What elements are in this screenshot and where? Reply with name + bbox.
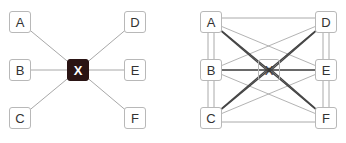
right-node-f: F <box>315 107 337 129</box>
left-node-b: B <box>9 59 31 81</box>
left-hub-x: X <box>67 59 89 81</box>
left-node-f: F <box>124 107 146 129</box>
left-node-d: D <box>124 11 146 33</box>
right-node-b: B <box>200 59 222 81</box>
right-node-a: A <box>200 11 222 33</box>
edges-layer <box>0 0 346 143</box>
left-node-a: A <box>9 11 31 33</box>
right-hub-x: X <box>258 59 280 81</box>
left-node-c: C <box>9 107 31 129</box>
right-node-d: D <box>315 11 337 33</box>
right-node-e: E <box>315 59 337 81</box>
left-node-e: E <box>124 59 146 81</box>
right-node-c: C <box>200 107 222 129</box>
